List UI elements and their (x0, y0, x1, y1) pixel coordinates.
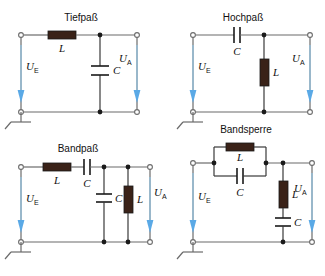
terminal-output-bottom (148, 240, 153, 245)
terminal-input-top (191, 161, 196, 166)
terminal-output-bottom (310, 240, 315, 245)
shunt-inductor-label: L (136, 193, 143, 205)
junction-node (264, 161, 269, 166)
circuit-title-bandpass: Bandpaß (58, 143, 99, 154)
inductor-label: L (58, 42, 65, 54)
inductor-label: L (272, 66, 279, 78)
junction-node (102, 165, 107, 170)
junction-node (262, 110, 267, 115)
junction-node (126, 240, 131, 245)
terminal-output-top (310, 161, 315, 166)
inductor-symbol (226, 143, 254, 151)
inductor-label: L (53, 174, 60, 186)
junction-node (98, 110, 103, 115)
terminal-output-top (308, 33, 313, 38)
terminal-input-top (19, 33, 24, 38)
inductor-symbol (124, 186, 133, 213)
inductor-symbol (43, 163, 71, 171)
junction-node (126, 165, 131, 170)
terminal-output-top (135, 33, 140, 38)
inductor-symbol (260, 59, 269, 86)
figure-background (0, 0, 325, 276)
junction-node (281, 240, 286, 245)
terminal-output-bottom (135, 110, 140, 115)
inductor-symbol (48, 31, 76, 39)
shunt-capacitor-label: C (115, 192, 123, 204)
junction-node (212, 161, 217, 166)
terminal-input-top (19, 165, 24, 170)
inductor-label: L (236, 151, 243, 163)
circuit-title-bandsperre: Bandsperre (220, 124, 272, 135)
inductor-symbol (279, 181, 288, 208)
terminal-input-top (191, 33, 196, 38)
junction-node (102, 240, 107, 245)
capacitor-label: C (236, 186, 244, 198)
terminal-output-top (148, 165, 153, 170)
circuit-title-tiefpass: Tiefpaß (64, 12, 98, 23)
junction-node (281, 161, 286, 166)
junction-node (262, 33, 267, 38)
shunt-capacitor-label: C (294, 216, 302, 228)
capacitor-label: C (233, 45, 241, 57)
junction-node (98, 33, 103, 38)
filter-schematics-figure: Tiefpaß L C UE (0, 0, 325, 276)
circuit-title-hochpass: Hochpaß (223, 12, 264, 23)
capacitor-label: C (113, 64, 121, 76)
capacitor-label: C (83, 177, 91, 189)
terminal-output-bottom (308, 110, 313, 115)
